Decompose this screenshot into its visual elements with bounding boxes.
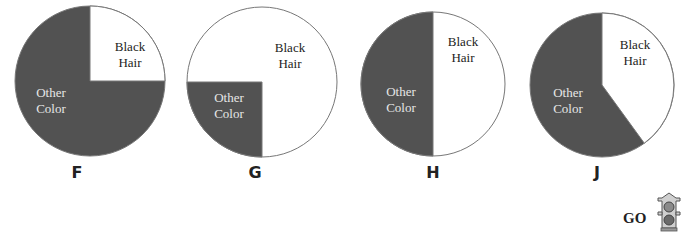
other-color-label: Other [386,84,416,99]
svg-text:Hair: Hair [623,53,647,68]
black-hair-label: Black [275,40,306,55]
svg-text:Color: Color [386,100,416,115]
pie-chart-j: Black Hair Other Color [528,11,676,159]
pie-chart-h: Black Hair Other Color [359,10,507,158]
option-label-g: G [240,163,270,182]
other-color-label: Other [553,85,583,100]
svg-text:Color: Color [553,101,583,116]
other-color-label: Other [36,85,66,100]
option-label-f: F [62,163,92,182]
svg-text:Color: Color [36,101,66,116]
svg-text:Hair: Hair [118,55,142,70]
svg-text:Hair: Hair [451,50,475,65]
go-label: GO [623,210,646,227]
traffic-light-icon [656,192,682,236]
black-hair-label: Black [620,37,651,52]
pie-chart-g: Black Hair Other Color [186,6,338,158]
pie-chart-f: Black Hair Other Color [14,5,166,157]
option-label-j: J [582,163,612,182]
svg-text:Color: Color [214,106,244,121]
black-hair-label: Black [448,34,479,49]
svg-text:Hair: Hair [278,56,302,71]
option-label-h: H [418,163,448,182]
black-hair-label: Black [115,39,146,54]
other-color-label: Other [214,90,244,105]
